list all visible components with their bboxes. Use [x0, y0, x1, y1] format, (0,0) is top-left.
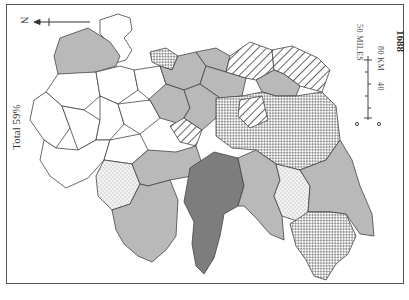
scale-miles-label: 50 MILES: [355, 24, 364, 61]
region-crosshatch-southeast: [290, 212, 356, 280]
north-label: N: [18, 14, 30, 26]
total-percentage-label: Total 59%: [10, 97, 24, 157]
scale-km-label: 80 KM: [376, 46, 385, 71]
map-year-label: 1688: [393, 21, 407, 61]
scale-km-mid-label: 40: [376, 82, 385, 91]
choropleth-map: [0, 0, 409, 300]
north-arrow-icon: [34, 18, 90, 26]
region-dark-gray-central: [184, 152, 244, 274]
